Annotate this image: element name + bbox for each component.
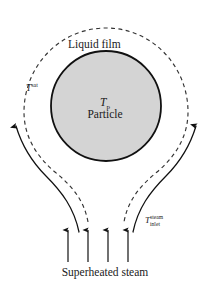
inlet-steam-arrows <box>68 230 128 262</box>
particle-text-label: Particle <box>0 108 210 120</box>
particle-liquid-film-steam-diagram: Liquid film Tsat Tp Particle Tsteaminlet… <box>0 0 210 290</box>
liquid-film-label: Liquid film <box>68 38 121 50</box>
t-sat-superscript: sat <box>31 82 38 88</box>
superheated-steam-caption: Superheated steam <box>0 266 210 278</box>
saturation-temperature-label: Tsat <box>26 84 38 94</box>
particle-label-group: Tp Particle <box>0 96 210 120</box>
t-inlet-superscript: steam <box>150 215 163 221</box>
t-inlet-subscript: inlet <box>150 222 160 228</box>
inlet-steam-temperature-label: Tsteaminlet <box>145 216 150 225</box>
particle-temperature-label: Tp <box>0 96 210 108</box>
